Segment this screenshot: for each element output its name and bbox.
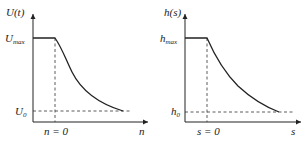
x-axis-label: s — [291, 125, 295, 137]
left-plot: U(t) Umax U0 n = 0 n — [5, 6, 148, 137]
y-axis-label: U(t) — [6, 6, 25, 19]
max-label: Umax — [5, 32, 26, 46]
right-plot: h(s) hmax h0 s = 0 s — [160, 6, 301, 137]
origin-label: s = 0 — [197, 125, 220, 137]
min-label: U0 — [15, 105, 27, 119]
curve — [33, 38, 123, 111]
curve — [185, 38, 279, 112]
y-axis-label: h(s) — [164, 6, 181, 19]
x-axis-label: n — [139, 125, 145, 137]
diagram: U(t) Umax U0 n = 0 n h(s) hmax h0 s = 0 … — [0, 0, 308, 142]
origin-label: n = 0 — [44, 125, 68, 137]
min-label: h0 — [171, 105, 181, 119]
max-label: hmax — [160, 32, 178, 46]
